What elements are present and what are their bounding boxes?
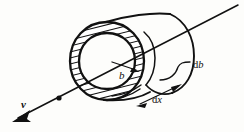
cylinder-near-end	[70, 22, 144, 100]
trajectory-axis	[12, 5, 238, 122]
cylinder-near-end-inner-circle	[79, 33, 135, 89]
cylinder-top-generator	[106, 13, 170, 22]
cylinder-far-end-ellipse	[170, 14, 194, 93]
length-element-label: dx	[152, 94, 162, 105]
db-leader-line	[160, 62, 190, 80]
scattering-cylinder-figure: b db dx v	[0, 0, 244, 132]
impact-parameter-label: b	[119, 69, 125, 81]
figure-canvas: b db dx v	[0, 0, 244, 132]
length-element-var: x	[156, 94, 162, 105]
cylinder-inner-far-arc	[144, 32, 155, 85]
shell-thickness-var: b	[198, 59, 203, 70]
db-leader	[160, 62, 190, 80]
hatched-annulus	[62, 0, 152, 120]
axis-point-marker	[56, 95, 61, 100]
velocity-label: v	[21, 98, 26, 110]
trajectory-arrowhead	[12, 110, 31, 122]
shell-thickness-label: db	[193, 59, 204, 70]
trajectory-axis-line	[18, 5, 238, 118]
